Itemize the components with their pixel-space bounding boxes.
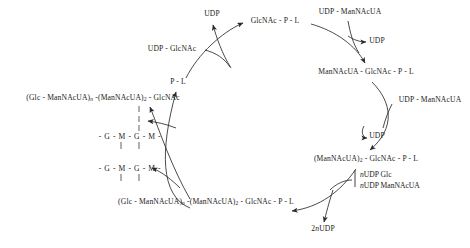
arc-into-chain-upper <box>148 121 176 128</box>
node-glcnac-p-l: GlcNAc - P - L <box>251 17 300 26</box>
node-mannacua2-glcnac-p-l: (ManNAcUA)2 - GlcNAc - P - L <box>314 155 418 164</box>
donor-line-udp-glc: nUDP Glc <box>360 169 420 180</box>
arc-polymer-to-pl <box>165 92 190 208</box>
release-2nudp <box>324 190 333 222</box>
substrate-udp-mannacua-1: UDP - ManNAcUA <box>319 8 382 17</box>
product-2n-udp: 2nUDP <box>311 225 335 234</box>
substrate-udp-glcnac: UDP - GlcNAc <box>148 45 196 54</box>
node-p-l: P - L <box>170 78 186 87</box>
feed-nudp-donors <box>330 180 352 190</box>
product-udp-right-1: UDP <box>369 37 385 46</box>
donor-line-udp-mannacua: nUDP ManNAcUA <box>360 180 420 191</box>
pathway-arrows-layer <box>0 0 470 248</box>
product-udp-top: UDP <box>204 10 220 19</box>
chain-row-upper: - G - M - G - M - <box>99 132 162 141</box>
arc-polymer-release <box>150 107 190 199</box>
arc-glcnac-to-man1 <box>311 24 365 63</box>
pathway-diagram-canvas: P - L GlcNAc - P - L ManNAcUA - GlcNAc -… <box>0 0 470 248</box>
release-udp-r1 <box>348 36 366 42</box>
node-mannacua-glcnac-p-l: ManNAcUA - GlcNAc - P - L <box>318 68 413 77</box>
feed-udp-glcnac <box>205 50 230 67</box>
node-polymer-released: (Glc - ManNAcUA)n -(ManNAcUA)2 - GlcNAc <box>26 94 179 103</box>
chain-row-lower: - G - M - G - M - <box>99 164 162 173</box>
product-udp-right-2: UDP <box>369 132 385 141</box>
release-udp-r2 <box>362 126 367 138</box>
node-polymer-p-l: (Glc - ManNAcUA)n -(ManNAcUA)2 - GlcNAc … <box>118 198 294 207</box>
donor-group: nUDP Glc nUDP ManNAcUA <box>360 169 420 191</box>
arc-man2-to-polymer <box>292 169 356 211</box>
substrate-udp-mannacua-2: UDP - ManNAcUA <box>399 96 462 105</box>
